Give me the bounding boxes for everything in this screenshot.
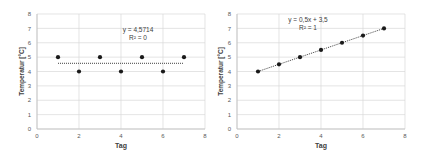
y-tick-label: 4 — [28, 69, 32, 75]
y-tick-label: 6 — [28, 40, 32, 46]
data-point — [56, 55, 60, 59]
chart-constant-temperature: 012345678 02468 y = 4,5714 R² = 0 Tag Te… — [0, 0, 212, 158]
x-tick-label: 6 — [161, 133, 165, 139]
trendline-r2: R² = 1 — [299, 24, 317, 31]
trendline-r2: R² = 0 — [129, 34, 147, 41]
y-tick-label: 4 — [228, 69, 232, 75]
chart-linear-temperature: 012345678 02468 y = 0,5x + 3,5 R² = 1 Ta… — [212, 0, 424, 158]
x-tick-label: 8 — [203, 133, 207, 139]
data-point — [77, 69, 81, 73]
y-tick-label: 8 — [28, 11, 32, 17]
y-tick-label: 7 — [228, 26, 232, 32]
data-point — [340, 41, 344, 45]
data-point — [161, 69, 165, 73]
y-tick-label: 1 — [228, 112, 232, 118]
y-tick-label: 0 — [28, 126, 32, 132]
data-point — [119, 69, 123, 73]
trendline-equation: y = 0,5x + 3,5 — [288, 16, 328, 24]
y-tick-label: 7 — [28, 26, 32, 32]
x-tick-label: 6 — [361, 133, 365, 139]
x-tick-label: 0 — [35, 133, 39, 139]
y-tick-label: 5 — [228, 54, 232, 60]
y-tick-label: 3 — [228, 83, 232, 89]
data-point — [277, 62, 281, 66]
data-point — [140, 55, 144, 59]
y-tick-label: 5 — [28, 54, 32, 60]
x-tick-label: 4 — [119, 133, 123, 139]
data-point — [382, 26, 386, 30]
data-point — [298, 55, 302, 59]
data-point — [319, 48, 323, 52]
y-tick-label: 6 — [228, 40, 232, 46]
data-point — [361, 33, 365, 37]
y-tick-label: 8 — [228, 11, 232, 17]
x-tick-label: 4 — [319, 133, 323, 139]
y-tick-labels: 012345678 — [228, 11, 232, 132]
x-axis-title: Tag — [315, 142, 327, 150]
trendline-equation: y = 4,5714 — [123, 26, 154, 34]
x-tick-label: 0 — [235, 133, 239, 139]
y-tick-label: 2 — [28, 97, 32, 103]
x-tick-label: 2 — [77, 133, 81, 139]
data-point — [256, 69, 260, 73]
chart-left-svg: 012345678 02468 y = 4,5714 R² = 0 Tag Te… — [0, 0, 212, 158]
x-tick-labels: 02468 — [35, 133, 207, 139]
data-point — [182, 55, 186, 59]
y-axis-title: Temperatur [°C] — [18, 47, 26, 96]
y-axis-title: Temperatur [°C] — [217, 47, 225, 96]
y-tick-label: 0 — [228, 126, 232, 132]
x-tick-label: 8 — [403, 133, 407, 139]
x-tick-label: 2 — [277, 133, 281, 139]
data-point — [98, 55, 102, 59]
y-tick-label: 1 — [28, 112, 32, 118]
y-tick-label: 2 — [228, 97, 232, 103]
y-tick-label: 3 — [28, 83, 32, 89]
x-axis-title: Tag — [115, 142, 127, 150]
chart-right-svg: 012345678 02468 y = 0,5x + 3,5 R² = 1 Ta… — [212, 0, 424, 158]
x-tick-labels: 02468 — [235, 133, 407, 139]
y-tick-labels: 012345678 — [28, 11, 32, 132]
grid-lines — [237, 14, 405, 129]
